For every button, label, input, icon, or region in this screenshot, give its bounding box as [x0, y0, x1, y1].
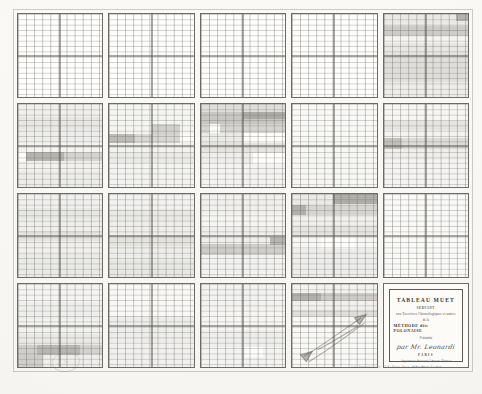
panel-blocks [292, 194, 376, 277]
chart-panel-r3c3 [200, 193, 286, 278]
cartouche-title: TABLEAU MUET [397, 297, 455, 303]
shading-block [292, 205, 306, 215]
chart-panel-r3c1 [17, 193, 103, 278]
cartouche-dela: de la [423, 318, 429, 322]
chart-panel-r3c2 [108, 193, 194, 278]
panel-blocks [384, 104, 468, 187]
chart-panel-r4c2 [108, 283, 194, 368]
panel-blocks [384, 14, 468, 97]
chart-panel-r1c5 [383, 13, 469, 98]
shading-block [201, 244, 236, 256]
shading-block [456, 14, 468, 21]
title-cartouche: TABLEAU MUETSERVANTaux Exercices Chronol… [383, 283, 469, 368]
panel-blocks [201, 194, 285, 277]
shading-block [243, 112, 285, 119]
cartouche-purpose: aux Exercices Chronologiques et autres [396, 312, 455, 316]
panel-blocks [384, 194, 468, 277]
chart-panel-r4c1 [17, 283, 103, 368]
shading-block [180, 134, 194, 144]
cartouche-publisher-line-1: Imprimerie Bernard, Libraire-Éditeur [400, 359, 451, 364]
paper-sheet: TABLEAU MUETSERVANTaux Exercices Chronol… [0, 0, 482, 394]
cartouche-method: MÉTHODE dite POLONAISE [394, 323, 458, 333]
shading-block [245, 347, 264, 357]
panel-blocks [109, 104, 193, 187]
shading-block [109, 134, 134, 144]
engraved-plate: TABLEAU MUETSERVANTaux Exercices Chronol… [17, 13, 469, 368]
panel-blocks [109, 284, 193, 367]
shading-block [18, 345, 37, 356]
panel-blocks [201, 14, 285, 97]
shading-block [384, 138, 403, 149]
panel-blocks [292, 284, 376, 367]
chart-panel-r2c1 [17, 103, 103, 188]
panel-blocks [18, 194, 102, 277]
shading-block [26, 152, 64, 162]
panel-grid: TABLEAU MUETSERVANTaux Exercices Chronol… [17, 13, 469, 368]
chart-panel-r4c4 [291, 283, 377, 368]
chart-panel-r2c5 [383, 103, 469, 188]
chart-panel-r2c3 [200, 103, 286, 188]
shading-block [152, 124, 181, 134]
shading-block [209, 124, 220, 133]
chart-panel-r1c3 [200, 13, 286, 98]
panel-blocks [109, 194, 193, 277]
chart-panel-r1c2 [108, 13, 194, 98]
panel-blocks [18, 104, 102, 187]
chart-panel-r1c4 [291, 13, 377, 98]
chart-panel-r2c4 [291, 103, 377, 188]
shading-block [243, 133, 285, 143]
chart-panel-r2c2 [108, 103, 194, 188]
chart-panel-r3c4 [291, 193, 377, 278]
shading-block [37, 345, 81, 356]
shading-block [270, 237, 285, 245]
cartouche-servant: SERVANT [417, 306, 435, 310]
chart-panel-r4c3 [200, 283, 286, 368]
panel-blocks [18, 284, 102, 367]
panel-blocks [292, 104, 376, 187]
shading-block [18, 355, 43, 367]
panel-blocks [292, 14, 376, 97]
panel-blocks [201, 104, 285, 187]
shading-block [292, 293, 321, 301]
cartouche-author: par Mr. Leonardi [396, 343, 455, 350]
cartouche-inner: TABLEAU MUETSERVANTaux Exercices Chronol… [389, 289, 463, 362]
chart-panel-r1c1 [17, 13, 103, 98]
chart-panel-r3c5 [383, 193, 469, 278]
cartouche-presentee: Présentée [420, 336, 433, 340]
shading-block [321, 236, 355, 248]
shading-block [333, 194, 377, 204]
panel-blocks [18, 14, 102, 97]
cartouche-city: PARIS [418, 353, 434, 357]
shading-block [253, 153, 285, 163]
panel-blocks [109, 14, 193, 97]
panel-blocks [201, 284, 285, 367]
shading-block [18, 152, 26, 162]
